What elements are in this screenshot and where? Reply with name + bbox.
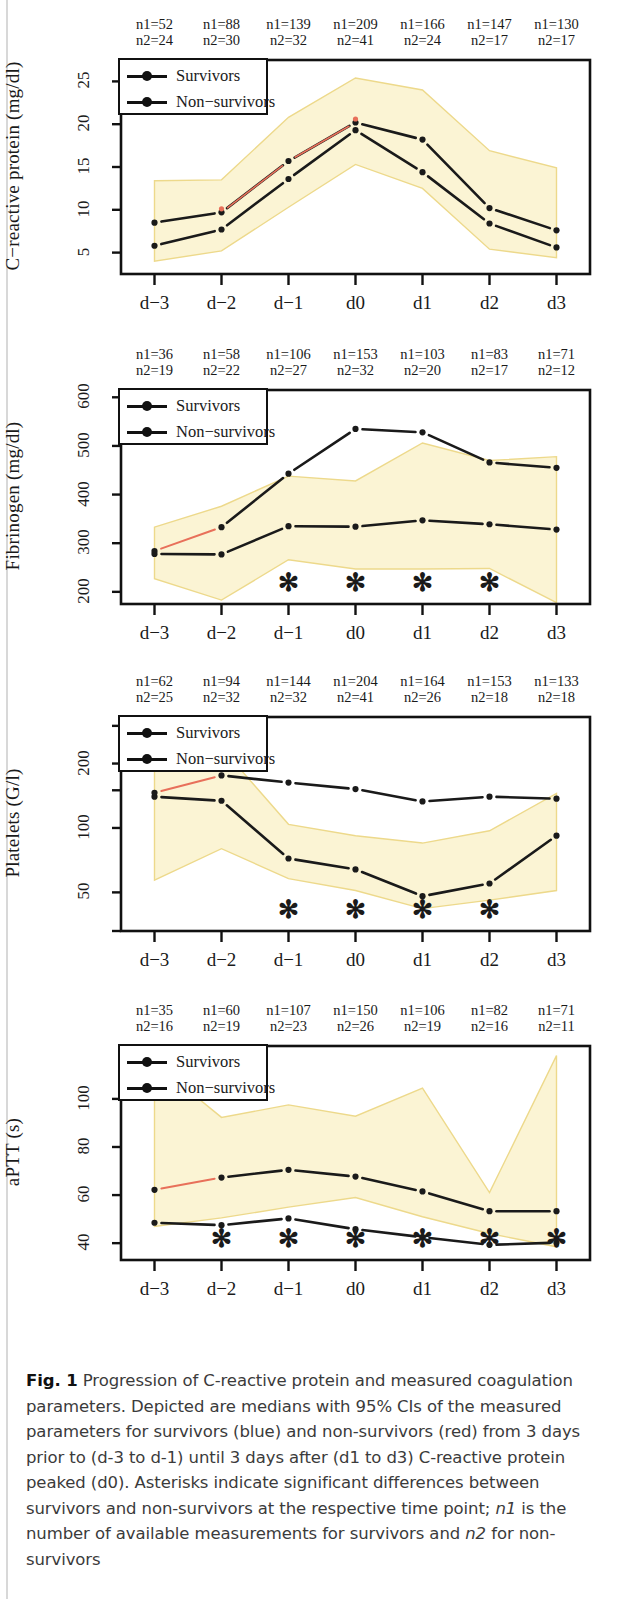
legend-label: Survivors bbox=[176, 1052, 240, 1072]
data-point-marker bbox=[218, 798, 224, 804]
series-line-segment bbox=[294, 433, 349, 470]
legend-label: Survivors bbox=[176, 723, 240, 743]
y-axis-title: Platelets (G/l) bbox=[2, 703, 24, 943]
data-point-marker bbox=[553, 526, 559, 532]
x-axis-tick-label: d0 bbox=[321, 622, 391, 644]
caption-n1-italic: n1 bbox=[495, 1499, 516, 1518]
caption-n2-italic: n2 bbox=[465, 1524, 486, 1543]
data-point-marker bbox=[553, 1208, 559, 1214]
y-axis-tick-label: 400 bbox=[74, 469, 94, 519]
series-line-segment bbox=[429, 797, 482, 801]
y-axis-tick-label: 300 bbox=[74, 517, 94, 567]
x-axis-tick-label: d1 bbox=[388, 292, 458, 314]
legend-item-non-survivors: Non−survivors bbox=[127, 92, 275, 112]
y-axis-tick-label: 60 bbox=[74, 1169, 94, 1219]
data-point-marker bbox=[151, 220, 157, 226]
chart-panel-aptt: n1=35n2=16n1=60n2=19n1=107n2=23n1=150n2=… bbox=[0, 986, 619, 1316]
x-axis-tick-label: d1 bbox=[388, 622, 458, 644]
y-axis-tick-label: 100 bbox=[74, 1073, 94, 1123]
chart-panel-platelets: n1=62n2=25n1=94n2=32n1=144n2=32n1=204n2=… bbox=[0, 657, 619, 987]
legend-item-survivors: Survivors bbox=[127, 1052, 240, 1072]
x-axis-tick-label: d1 bbox=[388, 1278, 458, 1300]
significance-asterisk: ✻ bbox=[275, 1230, 303, 1248]
significance-asterisk: ✻ bbox=[476, 1230, 504, 1248]
x-axis-tick-label: d−2 bbox=[187, 1278, 257, 1300]
data-point-marker bbox=[553, 833, 559, 839]
data-point-marker bbox=[419, 798, 425, 804]
significance-asterisk: ✻ bbox=[275, 901, 303, 919]
data-point-marker bbox=[285, 471, 291, 477]
legend-marker-icon bbox=[127, 1056, 167, 1068]
y-axis-tick-label: 25 bbox=[74, 55, 94, 105]
x-axis-tick-label: d3 bbox=[522, 622, 592, 644]
data-point-marker bbox=[218, 226, 224, 232]
significance-asterisk: ✻ bbox=[342, 1230, 370, 1248]
x-axis-tick-label: d−1 bbox=[254, 1278, 324, 1300]
chart-panel-c-reactive-protein: n1=52n2=24n1=88n2=30n1=139n2=32n1=209n2=… bbox=[0, 0, 619, 330]
x-axis-tick-label: d−3 bbox=[120, 1278, 190, 1300]
data-point-marker bbox=[419, 169, 425, 175]
data-point-marker bbox=[352, 426, 358, 432]
x-axis-tick-label: d−3 bbox=[120, 292, 190, 314]
legend-marker-icon bbox=[127, 426, 167, 438]
legend-label: Survivors bbox=[176, 66, 240, 86]
y-axis-tick-label: 200 bbox=[74, 566, 94, 616]
y-axis-tick-label: 50 bbox=[74, 866, 94, 916]
legend-marker-icon bbox=[127, 70, 167, 82]
significance-asterisk: ✻ bbox=[342, 901, 370, 919]
red-accent-marker bbox=[353, 116, 358, 121]
data-point-marker bbox=[352, 786, 358, 792]
legend-item-non-survivors: Non−survivors bbox=[127, 1078, 275, 1098]
x-axis-tick-label: d−3 bbox=[120, 622, 190, 644]
data-point-marker bbox=[486, 880, 492, 886]
data-point-marker bbox=[553, 227, 559, 233]
significance-asterisk: ✻ bbox=[275, 574, 303, 592]
legend-marker-icon bbox=[127, 1082, 167, 1094]
data-point-marker bbox=[218, 772, 224, 778]
data-point-marker bbox=[285, 523, 291, 529]
series-line-segment bbox=[228, 1219, 281, 1224]
significance-asterisk: ✻ bbox=[476, 901, 504, 919]
data-point-marker bbox=[151, 1220, 157, 1226]
y-axis-tick-label: 5 bbox=[74, 227, 94, 277]
y-axis-tick-label: 40 bbox=[74, 1217, 94, 1267]
data-point-marker bbox=[218, 551, 224, 557]
data-point-marker bbox=[285, 855, 291, 861]
data-point-marker bbox=[285, 1167, 291, 1173]
legend-label: Non−survivors bbox=[176, 92, 275, 112]
legend-marker-icon bbox=[127, 96, 167, 108]
significance-asterisk: ✻ bbox=[543, 1230, 571, 1248]
caption-text-part1: Progression of C-reactive protein and me… bbox=[26, 1371, 580, 1518]
x-axis-tick-label: d2 bbox=[455, 622, 525, 644]
legend-label: Non−survivors bbox=[176, 749, 275, 769]
y-axis-tick-label: 100 bbox=[74, 802, 94, 852]
series-line-segment bbox=[362, 790, 415, 800]
data-point-marker bbox=[419, 137, 425, 143]
data-point-marker bbox=[285, 779, 291, 785]
x-axis-tick-label: d−1 bbox=[254, 949, 324, 971]
significance-asterisk: ✻ bbox=[476, 574, 504, 592]
legend-item-survivors: Survivors bbox=[127, 396, 240, 416]
y-axis-title: Fibrinogen (mg/dl) bbox=[2, 376, 24, 616]
y-axis-tick-label: 80 bbox=[74, 1121, 94, 1171]
data-point-marker bbox=[419, 517, 425, 523]
y-axis-tick-label: 500 bbox=[74, 420, 94, 470]
x-axis-tick-label: d−2 bbox=[187, 949, 257, 971]
x-axis-tick-label: d3 bbox=[522, 1278, 592, 1300]
data-point-marker bbox=[486, 1208, 492, 1214]
data-point-marker bbox=[285, 1215, 291, 1221]
data-point-marker bbox=[151, 548, 157, 554]
significance-asterisk: ✻ bbox=[409, 1230, 437, 1248]
x-axis-tick-label: d3 bbox=[522, 949, 592, 971]
x-axis-tick-label: d1 bbox=[388, 949, 458, 971]
figure-label: Fig. 1 bbox=[26, 1371, 78, 1390]
y-axis-tick-label: 15 bbox=[74, 141, 94, 191]
significance-asterisk: ✻ bbox=[208, 1230, 236, 1248]
data-point-marker bbox=[486, 205, 492, 211]
data-point-marker bbox=[486, 521, 492, 527]
data-point-marker bbox=[486, 794, 492, 800]
legend-item-survivors: Survivors bbox=[127, 66, 240, 86]
legend-item-non-survivors: Non−survivors bbox=[127, 749, 275, 769]
legend-marker-icon bbox=[127, 727, 167, 739]
significance-asterisk: ✻ bbox=[409, 901, 437, 919]
